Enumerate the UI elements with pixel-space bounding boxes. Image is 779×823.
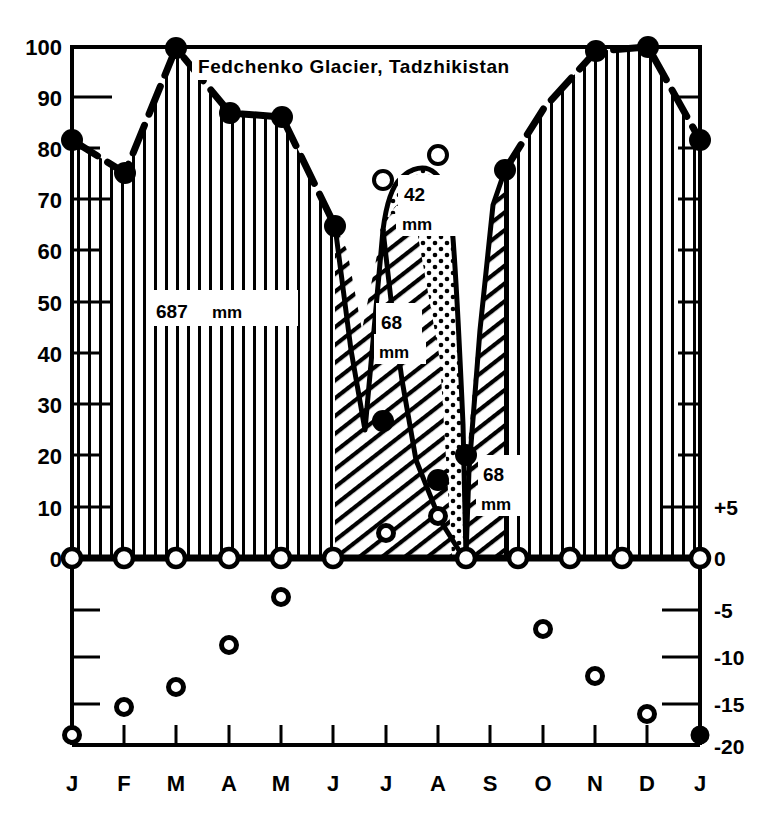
month-label-jun: J [327,771,339,796]
humidity-marker-jun [324,215,346,237]
annotation-42-value: 42 [404,184,425,205]
annotation-68mm-right: 68 mm [476,455,528,516]
left-tick-label-50: 50 [38,291,62,316]
chart-canvas: 100 90 80 70 60 50 40 30 20 10 0 +5 0 -5… [0,0,779,823]
month-label-mar: M [167,771,185,796]
humidity-marker-oct [494,159,516,181]
month-label-aug: A [430,771,446,796]
humidity-marker-mar [165,37,187,59]
annotation-42mm: 42 mm [396,175,458,236]
left-tick-label-20: 20 [38,444,62,469]
month-label-may: M [272,771,290,796]
left-tick-label-70: 70 [38,188,62,213]
left-tick-label-100: 100 [25,35,62,60]
annotation-68-left-unit: mm [379,343,409,362]
temp-marker-feb [117,700,132,715]
temp-marker-oct [536,622,551,637]
month-label-jan: J [66,771,78,796]
humidity-marker-aug [427,469,449,491]
annotation-687-unit: mm [212,303,242,322]
left-tick-label-0: 0 [50,547,62,572]
humidity-marker-feb [114,162,136,184]
left-tick-label-90: 90 [38,86,62,111]
month-label-sep: S [483,771,498,796]
left-tick-label-30: 30 [38,393,62,418]
month-label-nov: N [587,771,603,796]
chart-title-group: Fedchenko Glacier, Tadzhikistan [192,52,522,80]
annotation-687mm: 687 mm [150,290,298,326]
humidity-marker-sep [455,444,477,466]
temp-marker-mar [169,680,184,695]
month-label-dec: D [639,771,655,796]
month-label-jan2: J [694,771,706,796]
annotation-68mm-left: 68 mm [374,303,426,364]
month-labels: J F M A M J J A S O N D J [66,771,706,796]
left-tick-label-40: 40 [38,342,62,367]
annotation-68-left-value: 68 [381,312,402,333]
lens-marker-aug [429,146,447,164]
right-tick-label-0: 0 [714,547,726,570]
month-label-apr: A [221,771,237,796]
annotation-68-right-unit: mm [481,495,511,514]
humidity-marker-may [271,106,293,128]
month-ticks [124,725,647,745]
right-axis-labels: +5 0 -5 -10 -15 -20 [714,496,745,758]
right-tick-label-m5: -5 [714,599,733,622]
month-label-oct: O [534,771,551,796]
temp-marker-dec [640,707,655,722]
left-tick-label-10: 10 [38,496,62,521]
lens-marker-jul [374,171,392,189]
humidity-marker-jan2 [689,129,711,151]
left-axis-labels: 100 90 80 70 60 50 40 30 20 10 0 [25,35,62,572]
humidity-marker-dec [637,36,659,58]
right-tick-label-plus5: +5 [714,496,738,519]
right-tick-label-m20: -20 [714,735,744,758]
annotation-42-unit: mm [402,215,432,234]
temp-marker-aug [431,509,446,524]
right-tick-label-m15: -15 [714,693,745,716]
humidity-marker-nov [585,40,607,62]
annotation-687-value: 687 [156,301,188,322]
left-axis-ticks-below [72,610,100,704]
month-label-jul: J [380,771,392,796]
temp-marker-apr [222,638,237,653]
humidity-marker-jan [61,129,83,151]
temp-marker-jan2 [693,728,708,743]
temp-marker-jul [379,526,394,541]
temp-marker-jan [65,728,80,743]
page-title: Fedchenko Glacier, Tadzhikistan [198,56,510,77]
left-tick-label-60: 60 [38,239,62,264]
right-tick-label-m10: -10 [714,646,744,669]
month-label-feb: F [117,771,130,796]
climatograph-figure: 100 90 80 70 60 50 40 30 20 10 0 +5 0 -5… [0,0,779,823]
temp-marker-may [274,590,289,605]
humidity-marker-apr [219,102,241,124]
left-tick-label-80: 80 [38,137,62,162]
temp-marker-nov [588,669,603,684]
humidity-marker-jul [372,410,394,432]
annotation-68-right-value: 68 [483,464,504,485]
